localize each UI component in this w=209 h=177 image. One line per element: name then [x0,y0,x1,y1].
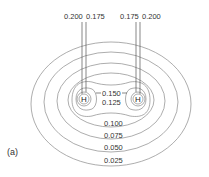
panel-label: (a) [7,147,18,157]
label-top-2: 0.175 [120,12,139,21]
label-lower-1: 0.075 [104,131,123,140]
label-center-1: 0.125 [102,98,121,107]
label-lower-2: 0.050 [104,143,123,152]
label-lower-3: 0.025 [104,156,123,165]
label-top-0: 0.200 [64,12,83,21]
atom-h-right: H [135,95,141,104]
label-top-1: 0.175 [86,12,105,21]
label-center-0: 0.150 [102,89,121,98]
label-lower-0: 0.100 [104,119,123,128]
electron-density-contour-diagram: 0.200 0.175 0.175 0.200 0.150 0.125 0.10… [0,0,209,177]
label-top-3: 0.200 [142,12,161,21]
atom-h-left: H [81,95,87,104]
